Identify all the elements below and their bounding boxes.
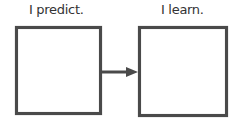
box-learn (138, 26, 228, 117)
arrow-icon (100, 65, 140, 79)
label-learn: I learn. (161, 2, 204, 17)
box-predict (15, 26, 102, 115)
label-predict: I predict. (29, 2, 84, 17)
